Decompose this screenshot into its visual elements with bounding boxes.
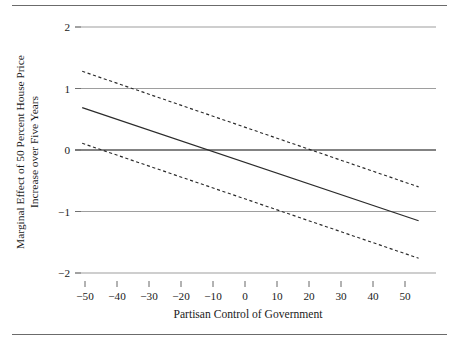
x-tick-label-neg30: −30: [140, 290, 158, 302]
x-tick-label-40: 40: [367, 290, 379, 302]
marginal-effect-line-chart: 2 1 0 −1 −2 −50 −40 −30 −20 −10 0 1: [0, 0, 451, 343]
x-tick-label-neg20: −20: [172, 290, 190, 302]
lower-confidence-bound-line: [82, 143, 418, 258]
y-tick-label-0: 0: [64, 144, 70, 156]
y-tick-labels: 2 1 0 −1 −2: [58, 21, 70, 279]
x-tick-label-neg10: −10: [204, 290, 222, 302]
x-axis-title: Partisan Control of Government: [173, 308, 323, 321]
y-axis-title: Marginal Effect of 50 Percent House Pric…: [14, 55, 40, 249]
y-tick-label-neg1: −1: [58, 206, 70, 218]
x-tick-label-20: 20: [303, 290, 315, 302]
x-tick-label-30: 30: [335, 290, 347, 302]
x-tick-label-neg40: −40: [108, 290, 126, 302]
y-axis-title-line-1: Marginal Effect of 50 Percent House Pric…: [14, 55, 26, 249]
x-tick-label-neg50: −50: [76, 290, 94, 302]
x-tickmarks: [85, 281, 405, 287]
y-tickmarks: [75, 27, 81, 273]
x-tick-label-50: 50: [399, 290, 411, 302]
point-estimate-line: [82, 108, 418, 221]
x-tick-label-10: 10: [271, 290, 283, 302]
y-tick-label-2: 2: [64, 21, 70, 33]
x-tick-labels: −50 −40 −30 −20 −10 0 10 20 30 40 50: [76, 290, 411, 302]
y-tick-label-neg2: −2: [58, 267, 70, 279]
series-lines: [82, 71, 418, 258]
x-tick-label-0: 0: [242, 290, 248, 302]
y-tick-label-1: 1: [64, 83, 70, 95]
y-axis-title-line-2: Increase over Five Years: [28, 95, 40, 208]
y-gridlines: [75, 27, 436, 273]
figure-container: 2 1 0 −1 −2 −50 −40 −30 −20 −10 0 1: [0, 0, 451, 343]
